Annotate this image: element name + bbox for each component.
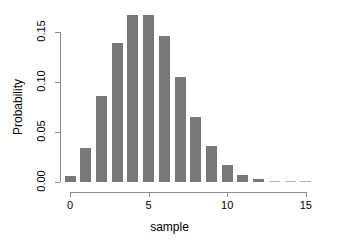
y-axis-tick	[55, 82, 60, 83]
bar	[175, 77, 186, 182]
plot-area: 0510150.000.050.100.15	[0, 0, 339, 243]
bar	[80, 148, 91, 182]
bar	[300, 181, 311, 182]
bar	[143, 15, 154, 182]
bar	[127, 15, 138, 182]
x-axis-tick	[149, 192, 150, 197]
bar	[269, 181, 280, 182]
y-axis-title: Probability	[11, 79, 25, 135]
bar	[96, 96, 107, 182]
y-axis-tick	[55, 182, 60, 183]
x-axis-tick	[227, 192, 228, 197]
x-axis-title: sample	[0, 220, 339, 234]
y-axis-tick-label: 0.00	[35, 168, 47, 194]
y-axis-tick-label: 0.15	[35, 18, 47, 44]
y-axis-tick-label: 0.05	[35, 118, 47, 144]
x-axis-tick	[70, 192, 71, 197]
probability-bar-chart: 0510150.000.050.100.15 sample Probabilit…	[0, 0, 339, 243]
bar	[206, 146, 217, 182]
bar	[190, 117, 201, 182]
y-axis-tick	[55, 32, 60, 33]
bar	[159, 36, 170, 182]
bar	[285, 181, 296, 182]
x-axis-tick-label: 5	[146, 199, 152, 211]
x-axis-line	[70, 192, 306, 193]
bar	[112, 43, 123, 182]
bar	[253, 179, 264, 182]
y-axis-line	[60, 32, 61, 182]
y-axis-tick	[55, 132, 60, 133]
bar	[237, 175, 248, 182]
x-axis-tick-label: 0	[67, 199, 73, 211]
bar	[65, 176, 76, 182]
x-axis-tick-label: 10	[221, 199, 233, 211]
x-axis-tick-label: 15	[300, 199, 312, 211]
bar	[222, 165, 233, 182]
y-axis-tick-label: 0.10	[35, 68, 47, 94]
x-axis-tick	[306, 192, 307, 197]
